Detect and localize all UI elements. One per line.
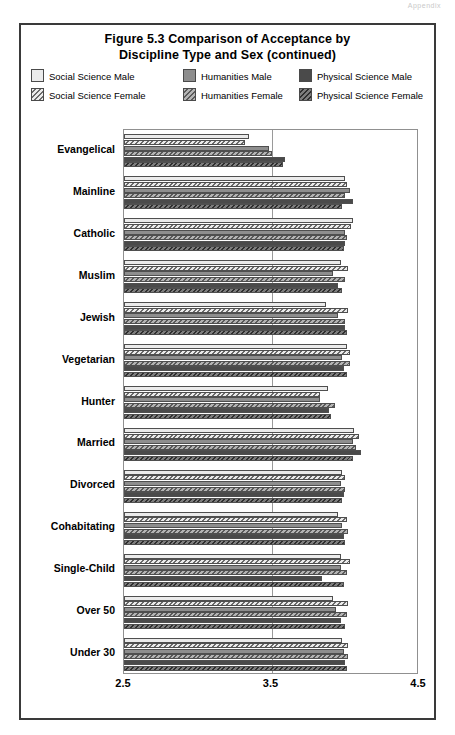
bar-group	[124, 172, 417, 214]
bar-ssm	[124, 344, 347, 349]
bar-hm	[124, 523, 342, 528]
bar-hf	[124, 193, 345, 198]
bar-hf	[124, 319, 345, 324]
bar-hf	[124, 403, 335, 408]
legend-item-humanities-female: Humanities Female	[183, 88, 299, 101]
bar-group	[124, 214, 417, 256]
legend-label: Humanities Female	[201, 89, 283, 101]
bar-ssf	[124, 475, 345, 480]
bar-hm	[124, 565, 341, 570]
category-label-married: Married	[19, 437, 115, 448]
bar-ssf	[124, 182, 347, 187]
bar-ssm	[124, 638, 342, 643]
bar-pf	[124, 498, 342, 503]
legend-item-physical-science-male: Physical Science Male	[299, 69, 427, 82]
figure-title-line2: Discipline Type and Sex (continued)	[21, 47, 434, 63]
legend-row-male: Social Science Male Humanities Male Phys…	[31, 67, 427, 84]
legend-label: Physical Science Female	[317, 89, 423, 101]
solid-light-swatch-icon	[31, 69, 44, 82]
page-header-text: Appendix	[408, 2, 441, 9]
bar-hm	[124, 355, 342, 360]
bar-ssm	[124, 470, 342, 475]
legend-label: Physical Science Male	[317, 70, 412, 82]
legend-label: Social Science Female	[49, 89, 146, 101]
bar-hf	[124, 529, 348, 534]
bar-hm	[124, 439, 353, 444]
legend-label: Social Science Male	[49, 70, 135, 82]
category-label-cohabitating: Cohabitating	[19, 521, 115, 532]
bar-pf	[124, 246, 344, 251]
bar-hm	[124, 188, 350, 193]
bar-psm	[124, 408, 329, 413]
bar-hm	[124, 607, 336, 612]
bar-hm	[124, 397, 320, 402]
bar-ssf	[124, 266, 348, 271]
solid-mid-swatch-icon	[183, 69, 196, 82]
bar-ssm	[124, 386, 328, 391]
bar-psm	[124, 618, 341, 623]
legend-item-physical-science-female: Physical Science Female	[299, 88, 427, 101]
bar-pf	[124, 288, 342, 293]
bar-ssf	[124, 601, 348, 606]
bar-hf	[124, 654, 348, 659]
bar-hf	[124, 235, 347, 240]
legend-item-social-science-male: Social Science Male	[31, 69, 183, 82]
bar-hm	[124, 313, 338, 318]
bar-hf	[124, 361, 350, 366]
category-label-under-30: Under 30	[19, 647, 115, 658]
hatched-dark-swatch-icon	[299, 88, 312, 101]
category-label-single-child: Single-Child	[19, 563, 115, 574]
bar-ssf	[124, 643, 348, 648]
figure-title-line1: Figure 5.3 Comparison of Acceptance by	[105, 32, 351, 46]
bar-psm	[124, 660, 345, 665]
bar-pf	[124, 372, 347, 377]
figure-frame: Figure 5.3 Comparison of Acceptance by D…	[19, 23, 436, 720]
category-label-mainline: Mainline	[19, 186, 115, 197]
bar-hf	[124, 445, 356, 450]
bar-ssm	[124, 260, 341, 265]
bar-ssm	[124, 302, 326, 307]
bar-hf	[124, 151, 272, 156]
bar-group	[124, 382, 417, 424]
x-tick-label: 3.5	[263, 677, 278, 689]
bar-psm	[124, 199, 353, 204]
bar-hm	[124, 230, 345, 235]
bar-group	[124, 423, 417, 465]
category-axis-labels: EvangelicalMainlineCatholicMuslimJewishV…	[21, 129, 121, 674]
bar-ssm	[124, 596, 333, 601]
bar-psm	[124, 283, 338, 288]
bar-ssm	[124, 134, 249, 139]
bar-hf	[124, 612, 347, 617]
bar-hm	[124, 146, 269, 151]
bar-pf	[124, 204, 342, 209]
hatched-mid-swatch-icon	[183, 88, 196, 101]
bar-group	[124, 591, 417, 633]
legend-row-female: Social Science Female Humanities Female …	[31, 86, 427, 103]
bar-group	[124, 633, 417, 675]
bar-psm	[124, 241, 345, 246]
x-tick-label: 4.5	[410, 677, 425, 689]
bar-psm	[124, 366, 344, 371]
bar-hm	[124, 481, 341, 486]
bar-group	[124, 340, 417, 382]
value-axis-labels: 2.53.54.5	[123, 677, 418, 697]
bar-group	[124, 465, 417, 507]
legend-item-social-science-female: Social Science Female	[31, 88, 183, 101]
category-label-jewish: Jewish	[19, 312, 115, 323]
bar-ssf	[124, 517, 347, 522]
bar-pf	[124, 666, 347, 671]
bar-hf	[124, 277, 345, 282]
bar-group	[124, 298, 417, 340]
bar-hf	[124, 570, 347, 575]
bar-ssf	[124, 350, 350, 355]
bar-psm	[124, 157, 285, 162]
x-tick-label: 2.5	[115, 677, 130, 689]
bar-pf	[124, 414, 331, 419]
plot-axes	[123, 129, 418, 674]
bar-psm	[124, 576, 322, 581]
bar-pf	[124, 624, 345, 629]
category-label-muslim: Muslim	[19, 270, 115, 281]
bar-pf	[124, 162, 283, 167]
bar-hf	[124, 487, 345, 492]
bar-pf	[124, 330, 347, 335]
